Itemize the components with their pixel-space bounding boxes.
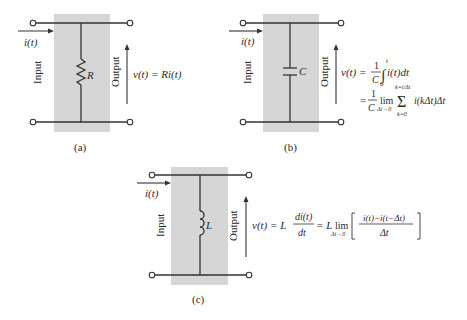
equation: v(t) = Ri(t) — [133, 68, 182, 81]
summand: i(kΔt)Δt — [414, 95, 445, 107]
terminal-icon — [149, 272, 155, 278]
eq-equals: = — [360, 94, 366, 106]
eq-frac-den: dt — [298, 227, 306, 238]
terminal-icon — [338, 20, 344, 26]
arrowhead-icon — [244, 196, 249, 202]
arrowhead-icon — [334, 44, 339, 50]
eq-frac2-num: i(t)−i(t−Δt) — [363, 213, 405, 223]
terminal-icon — [30, 20, 36, 26]
sum-upper: k=t/Δt — [395, 84, 411, 90]
eq-lim-sub: Δt→0 — [330, 231, 345, 237]
output-label: Output — [227, 210, 239, 241]
panel-b-box — [263, 14, 319, 132]
current-label: i(t) — [241, 35, 255, 48]
int-upper: t — [386, 57, 389, 65]
eq-lim-sub: Δt→0 — [376, 106, 391, 112]
output-label: Output — [109, 56, 121, 87]
terminal-icon — [240, 20, 246, 26]
arrowhead-icon — [257, 29, 263, 34]
eq-frac-num: 1 — [374, 60, 379, 71]
element-label: L — [205, 219, 212, 231]
current-label: i(t) — [145, 187, 159, 200]
caption-b: (b) — [284, 141, 297, 154]
right-bracket-icon — [417, 213, 420, 239]
sum-lower: k=0 — [397, 111, 407, 117]
equation: v(t) = L di(t) dt = L lim Δt→0 i(t)−i(t−… — [252, 211, 420, 239]
integrand: i(t)dt — [387, 66, 410, 79]
left-bracket-icon — [352, 213, 355, 239]
sigma-icon: Σ — [397, 93, 406, 110]
arrowhead-icon — [48, 29, 54, 34]
eq-frac-num: 1 — [371, 88, 376, 99]
eq-mid: = L — [316, 219, 332, 231]
eq-lhs: v(t) = — [341, 66, 366, 79]
caption-c: (c) — [192, 293, 205, 306]
eq-lim: lim — [335, 220, 349, 231]
terminal-icon — [127, 119, 133, 125]
arrowhead-icon — [165, 181, 171, 186]
eq-frac-den: C — [372, 74, 379, 85]
output-label: Output — [318, 56, 330, 87]
terminal-icon — [127, 20, 133, 26]
input-label: Input — [154, 214, 166, 237]
terminal-icon — [338, 119, 344, 125]
input-label: Input — [31, 61, 43, 84]
current-label: i(t) — [24, 36, 38, 49]
circuit-diagram: i(t) Input R Output v(t) = Ri(t) (a) i(t… — [0, 0, 467, 320]
terminal-icon — [30, 119, 36, 125]
caption-a: (a) — [74, 141, 87, 154]
terminal-icon — [240, 119, 246, 125]
element-label: R — [86, 69, 94, 81]
int-lower: 0 — [380, 80, 384, 88]
eq-frac-num: di(t) — [295, 211, 313, 223]
eq-frac-den: C — [368, 102, 375, 113]
panel-b: i(t) Input C Output v(t) = 1 C ∫ t 0 i(t… — [229, 14, 445, 154]
terminal-icon — [246, 172, 252, 178]
eq-lhs: v(t) = L — [252, 219, 286, 232]
panel-c: i(t) Input L Output v(t) = L di(t) dt = … — [137, 167, 420, 306]
panel-a-box — [54, 14, 110, 132]
terminal-icon — [149, 172, 155, 178]
input-label: Input — [241, 61, 253, 84]
arrowhead-icon — [125, 44, 130, 50]
equation-line-2: = 1 C lim Δt→0 k=t/Δt Σ k=0 i(kΔt)Δt — [360, 84, 445, 117]
eq-frac2-den: Δt — [379, 227, 389, 238]
eq-lim: lim — [380, 95, 394, 106]
terminal-icon — [246, 272, 252, 278]
panel-a: i(t) Input R Output v(t) = Ri(t) (a) — [18, 14, 182, 154]
element-label: C — [299, 65, 307, 77]
